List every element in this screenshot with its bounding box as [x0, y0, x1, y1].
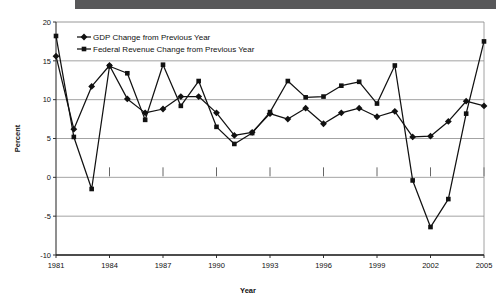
- data-point: [89, 187, 94, 192]
- data-point: [410, 178, 415, 183]
- data-point: [393, 63, 398, 68]
- x-axis-ticks: [56, 167, 484, 258]
- y-tick-label: -10: [40, 251, 51, 260]
- legend-label: GDP Change from Previous Year: [93, 33, 211, 42]
- legend-label: Federal Revenue Change from Previous Yea…: [93, 45, 255, 54]
- data-point: [321, 94, 326, 99]
- series-line: [56, 36, 484, 227]
- data-point: [446, 197, 451, 202]
- data-point: [284, 116, 291, 123]
- x-tick-label: 1990: [208, 261, 225, 270]
- y-tick-label: -5: [44, 212, 51, 221]
- x-axis-tick-labels: 198119841987199019931996199920022005: [48, 261, 493, 270]
- y-tick-label: 0: [47, 173, 51, 182]
- data-point: [339, 83, 344, 88]
- data-point: [374, 113, 381, 120]
- data-point: [464, 111, 469, 116]
- chart-legend: GDP Change from Previous YearFederal Rev…: [77, 33, 255, 54]
- x-tick-label: 2005: [476, 261, 493, 270]
- data-point: [268, 110, 273, 115]
- y-tick-label: 5: [47, 134, 51, 143]
- y-tick-label: 20: [43, 18, 51, 27]
- data-point: [250, 131, 255, 136]
- data-point: [107, 64, 112, 69]
- series-gdp: [53, 53, 488, 141]
- x-tick-label: 1984: [101, 261, 118, 270]
- x-tick-label: 1999: [369, 261, 386, 270]
- x-tick-label: 1993: [262, 261, 279, 270]
- data-point: [428, 225, 433, 230]
- data-point: [375, 101, 380, 106]
- x-axis-title: Year: [240, 286, 256, 295]
- data-point: [357, 80, 362, 85]
- series-line: [56, 56, 484, 137]
- y-axis-title: Percent: [13, 124, 22, 152]
- data-point: [179, 104, 184, 109]
- line-chart: -10-505101520 19811984198719901993199619…: [0, 0, 496, 301]
- data-point: [196, 79, 201, 84]
- legend-marker-square: [82, 47, 87, 52]
- data-point: [125, 71, 130, 76]
- data-series-layer: [53, 34, 488, 230]
- series-revenue: [54, 34, 487, 230]
- x-tick-label: 2002: [422, 261, 439, 270]
- y-axis-tick-labels: -10-505101520: [40, 18, 51, 260]
- chart-container: -10-505101520 19811984198719901993199619…: [0, 0, 496, 301]
- data-point: [356, 105, 363, 112]
- data-point: [338, 109, 345, 116]
- x-tick-label: 1996: [315, 261, 332, 270]
- data-point: [214, 125, 219, 130]
- x-tick-label: 1987: [155, 261, 172, 270]
- data-point: [286, 79, 291, 84]
- data-point: [232, 142, 237, 147]
- data-point: [161, 62, 166, 67]
- data-point: [53, 53, 60, 60]
- data-point: [303, 95, 308, 100]
- legend-marker-diamond: [81, 34, 88, 41]
- data-point: [72, 135, 77, 140]
- data-point: [482, 39, 487, 44]
- x-tick-label: 1981: [48, 261, 65, 270]
- y-tick-label: 15: [43, 57, 51, 66]
- data-point: [481, 102, 488, 109]
- y-tick-label: 10: [43, 95, 51, 104]
- data-point: [143, 118, 148, 123]
- gridlines: [56, 22, 484, 255]
- data-point: [54, 34, 59, 39]
